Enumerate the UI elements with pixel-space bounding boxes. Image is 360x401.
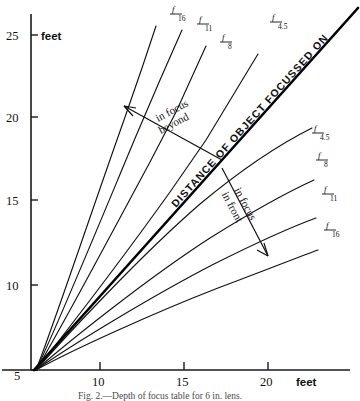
annotation-beyond: in focus beyond <box>151 97 196 136</box>
label-f11-front-num: f <box>324 184 328 194</box>
label-f11-beyond: f 11 <box>197 14 212 33</box>
curve-f16-front <box>36 250 318 370</box>
label-f16-beyond-num: f <box>172 4 176 14</box>
label-f8-beyond: f 8 <box>220 32 232 51</box>
x-tick-label-10: 10 <box>92 375 105 389</box>
curve-f11-front <box>36 218 316 370</box>
label-f16-beyond-den: 16 <box>178 14 186 23</box>
x-tick-label-15: 15 <box>176 375 189 389</box>
diagonal-axis-label: DISTANCE OF OBJECT FOCUSSED ON <box>169 31 331 209</box>
y-tick-label-15: 15 <box>6 194 19 208</box>
y-tick-label-20: 20 <box>6 111 19 125</box>
label-f8-front-den: 8 <box>324 160 328 169</box>
label-f8-front: f 8 <box>316 150 328 169</box>
label-f8-beyond-den: 8 <box>228 42 232 51</box>
label-f16-beyond: f 16 <box>170 4 186 23</box>
label-f16-front-num: f <box>326 220 330 230</box>
label-f45-front-num: f <box>314 123 318 133</box>
curve-f16-beyond <box>36 26 156 370</box>
depth-of-focus-figure: 25 20 15 10 5 feet 10 15 20 feet f 16 f … <box>0 0 360 401</box>
label-f11-beyond-den: 11 <box>205 24 212 33</box>
label-f45-beyond-num: f <box>272 12 276 22</box>
y-tick-label-5: 5 <box>14 369 20 383</box>
label-f8-beyond-num: f <box>222 32 226 42</box>
curve-f11-beyond <box>36 30 182 370</box>
y-axis-unit-label: feet <box>41 30 62 42</box>
annotation-in-front: in focus in front <box>220 184 260 229</box>
x-axis-ticks <box>100 362 268 370</box>
label-f16-front-den: 16 <box>332 230 340 239</box>
chart-canvas: 25 20 15 10 5 feet 10 15 20 feet f 16 f … <box>0 0 360 401</box>
label-f8-front-num: f <box>318 150 322 160</box>
label-f16-front: f 16 <box>324 220 340 239</box>
label-f11-beyond-num: f <box>199 14 203 24</box>
curve-f45-beyond <box>36 54 258 370</box>
label-f45-beyond: f 4.5 <box>270 12 288 31</box>
y-tick-label-10: 10 <box>6 279 19 293</box>
label-f11-front-den: 11 <box>330 194 337 203</box>
label-f45-front-den: 4.5 <box>320 133 330 142</box>
y-axis-ticks <box>31 35 38 370</box>
figure-caption: Fig. 2.—Depth of focus table for 6 in. l… <box>78 391 242 401</box>
y-tick-label-25: 25 <box>6 29 19 43</box>
x-axis-unit-label: feet <box>296 376 317 388</box>
label-f45-beyond-den: 4.5 <box>278 22 288 31</box>
x-tick-label-20: 20 <box>260 375 273 389</box>
curve-f45-front <box>36 128 312 370</box>
label-f45-front: f 4.5 <box>312 123 330 142</box>
label-f11-front: f 11 <box>322 184 337 203</box>
curves-in-focus-in-front <box>36 128 318 370</box>
